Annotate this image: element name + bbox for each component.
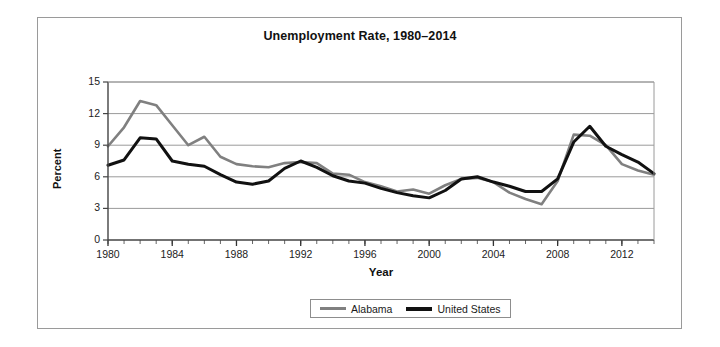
y-tick-label: 15 bbox=[66, 75, 100, 87]
y-tick-label: 0 bbox=[66, 233, 100, 245]
plot-area bbox=[0, 0, 720, 347]
chart-legend: AlabamaUnited States bbox=[310, 299, 511, 318]
legend-line-swatch-icon bbox=[406, 307, 432, 311]
x-tick-label: 2000 bbox=[407, 248, 451, 260]
legend-label: United States bbox=[437, 303, 500, 315]
x-tick-label: 2008 bbox=[536, 248, 580, 260]
x-tick-label: 2004 bbox=[471, 248, 515, 260]
legend-item: United States bbox=[406, 303, 500, 315]
x-tick-label: 1984 bbox=[150, 248, 194, 260]
y-tick-label: 12 bbox=[66, 107, 100, 119]
legend-line-swatch-icon bbox=[320, 307, 346, 310]
x-major-ticks-group bbox=[108, 240, 622, 246]
x-tick-label: 1988 bbox=[214, 248, 258, 260]
chart-figure: Unemployment Rate, 1980–2014 Percent 036… bbox=[0, 0, 720, 347]
y-major-ticks-group bbox=[103, 82, 108, 240]
x-tick-label: 1996 bbox=[343, 248, 387, 260]
y-tick-label: 9 bbox=[66, 138, 100, 150]
x-axis-label: Year bbox=[108, 266, 654, 278]
x-tick-label: 1980 bbox=[86, 248, 130, 260]
x-tick-label: 1992 bbox=[279, 248, 323, 260]
legend-label: Alabama bbox=[351, 303, 392, 315]
data-series-group bbox=[108, 101, 654, 204]
legend-item: Alabama bbox=[320, 303, 392, 315]
y-tick-label: 3 bbox=[66, 201, 100, 213]
x-tick-label: 2012 bbox=[600, 248, 644, 260]
y-tick-label: 6 bbox=[66, 170, 100, 182]
